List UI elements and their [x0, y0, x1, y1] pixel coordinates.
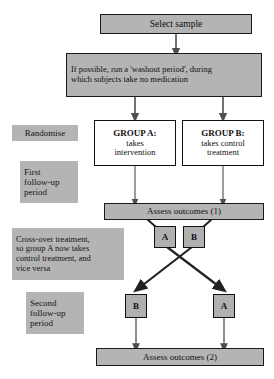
group-a-heading: GROUP A: [113, 128, 156, 138]
randomise-label: Randomise [12, 128, 78, 138]
group-b-heading: GROUP B: [201, 128, 244, 138]
label-crossover-note: Cross-over treatment, so group A now tak… [12, 228, 124, 280]
first-followup-line-1: First [24, 167, 41, 177]
node-crossover-top-b[interactable]: B [183, 226, 205, 248]
node-crossover-bottom-a[interactable]: A [213, 294, 235, 318]
crossover-note-line-2: so group A now takes [16, 243, 89, 253]
crossover-top-b-label: B [184, 232, 204, 242]
node-group-b[interactable]: GROUP B: takes control treatment [182, 120, 264, 166]
first-followup-line-3: period [24, 187, 47, 197]
second-followup-line-1: Second [30, 298, 57, 308]
group-a-line-2: intervention [114, 147, 155, 157]
node-assess-outcomes-1[interactable]: Assess outcomes (1) [104, 203, 264, 220]
select-sample-label: Select sample [101, 19, 251, 30]
crossover-line-a-to-right [167, 247, 221, 288]
node-crossover-top-a[interactable]: A [154, 226, 176, 248]
group-a-text: GROUP A: takes intervention [95, 128, 175, 158]
crossover-line-b-to-left [139, 247, 192, 288]
group-b-line-1: takes control [201, 138, 245, 148]
crossover-note-line-4: vice versa [16, 263, 50, 273]
crossover-bottom-a-label: A [214, 301, 234, 311]
assess-outcomes-1-label: Assess outcomes (1) [105, 206, 263, 216]
crossover-bottom-b-label: B [126, 301, 146, 311]
first-followup-text: First follow-up period [20, 167, 78, 197]
first-followup-line-2: follow-up [24, 177, 60, 187]
node-assess-outcomes-2[interactable]: Assess outcomes (2) [96, 348, 264, 366]
label-second-followup: Second follow-up period [26, 292, 84, 334]
node-select-sample[interactable]: Select sample [100, 14, 252, 34]
crossover-top-a-label: A [155, 232, 175, 242]
washout-line-1: If possible, run a 'washout period', dur… [71, 64, 212, 74]
node-crossover-bottom-b[interactable]: B [125, 294, 147, 318]
crossover-note-text: Cross-over treatment, so group A now tak… [12, 235, 124, 273]
washout-text: If possible, run a 'washout period', dur… [67, 65, 261, 84]
crossover-trial-flowchart: Select sample If possible, run a 'washou… [0, 0, 274, 379]
second-followup-line-3: period [30, 318, 53, 328]
node-washout-period[interactable]: If possible, run a 'washout period', dur… [66, 53, 262, 97]
washout-line-2: which subjects take no medication [71, 74, 188, 84]
label-first-followup: First follow-up period [20, 161, 78, 203]
group-a-line-1: takes [126, 138, 143, 148]
group-b-line-2: treatment [207, 147, 239, 157]
group-b-text: GROUP B: takes control treatment [183, 128, 263, 158]
crossover-note-line-1: Cross-over treatment, [16, 234, 90, 244]
crossover-note-line-3: control treatment, and [16, 253, 91, 263]
assess-outcomes-2-label: Assess outcomes (2) [97, 352, 263, 362]
second-followup-line-2: follow-up [30, 308, 66, 318]
second-followup-text: Second follow-up period [26, 298, 84, 328]
node-group-a[interactable]: GROUP A: takes intervention [94, 120, 176, 166]
label-randomise: Randomise [12, 125, 78, 141]
